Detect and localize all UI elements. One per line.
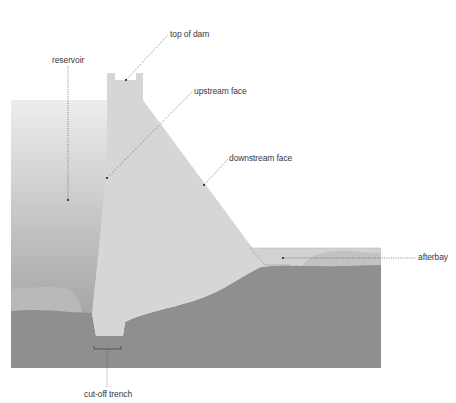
leader-top-of-dam xyxy=(126,35,168,80)
label-upstream-face: upstream face xyxy=(194,86,247,96)
leader-downstream-face xyxy=(204,159,228,185)
label-cut-off-trench: cut-off trench xyxy=(84,389,132,399)
reservoir-water xyxy=(11,100,109,315)
dot-downstream-face xyxy=(203,184,205,186)
dot-upstream-face xyxy=(106,177,108,179)
label-top-of-dam: top of dam xyxy=(170,29,209,39)
dot-afterbay xyxy=(282,257,284,259)
label-afterbay: afterbay xyxy=(418,252,448,262)
dot-top-of-dam xyxy=(125,79,127,81)
dot-reservoir xyxy=(67,199,69,201)
label-reservoir: reservoir xyxy=(52,55,84,65)
label-downstream-face: downstream face xyxy=(229,153,292,163)
